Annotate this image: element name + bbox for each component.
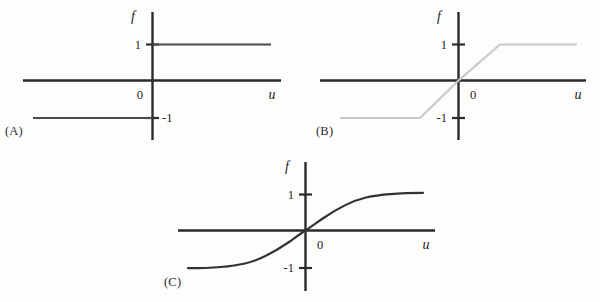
y-axis-label: f [285, 159, 291, 174]
tick-label-negative-one: -1 [162, 111, 172, 125]
panel-c-plot: f u 0 1 -1 [150, 150, 450, 302]
tick-label-positive-one: 1 [441, 38, 447, 52]
tick-label-positive-one: 1 [135, 38, 141, 52]
y-axis-label: f [131, 9, 137, 24]
tick-label-positive-one: 1 [288, 188, 294, 202]
x-axis-label: u [269, 87, 276, 102]
panel-b: f u 0 1 -1 (B) [300, 0, 600, 150]
panel-b-caption: (B) [316, 124, 333, 139]
tick-label-negative-one: -1 [437, 111, 447, 125]
panel-a-plot: f u 0 1 -1 [0, 0, 300, 150]
tick-label-negative-one: -1 [284, 261, 294, 275]
panel-c: f u 0 1 -1 (C) [150, 150, 450, 302]
panel-b-plot: f u 0 1 -1 [300, 0, 600, 150]
origin-label: 0 [470, 88, 476, 102]
y-axis-label: f [437, 9, 443, 24]
panel-a-caption: (A) [5, 124, 23, 139]
origin-label: 0 [137, 88, 143, 102]
panel-a: f u 0 1 -1 (A) [0, 0, 300, 150]
activation-functions-figure: f u 0 1 -1 (A) f u 0 1 -1 (B) [0, 0, 600, 302]
x-axis-label: u [575, 87, 582, 102]
panel-c-caption: (C) [164, 275, 181, 290]
origin-label: 0 [317, 238, 323, 252]
x-axis-label: u [423, 237, 430, 252]
